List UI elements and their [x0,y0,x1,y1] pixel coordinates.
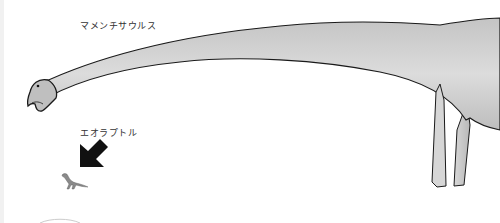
bottom-arc [40,219,80,223]
eoraptor-figure [62,174,88,189]
eye [37,85,40,88]
mamenchisaurus-label: マメンチサウルス [80,19,156,32]
eoraptor-label: エオラプトル [80,126,137,139]
head [28,80,57,112]
neck-and-torso [40,18,500,130]
front-leg [432,84,446,187]
pointer-arrow-icon [80,139,108,167]
dinosaur-illustration [0,0,500,223]
illustration-canvas: マメンチサウルス エオラプトル [0,0,500,223]
